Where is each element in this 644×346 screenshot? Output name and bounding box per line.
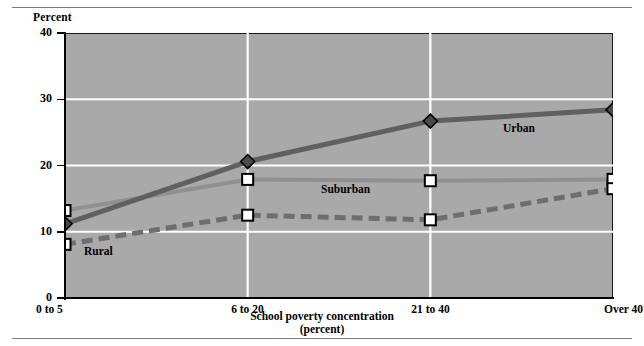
x-axis-title: School poverty concentration (percent) bbox=[0, 310, 644, 336]
y-tick-0 bbox=[57, 297, 65, 299]
y-tick-label-20: 20 bbox=[18, 158, 52, 173]
y-axis-title: Percent bbox=[33, 11, 72, 23]
bottom-divider-rule bbox=[12, 338, 632, 339]
y-tick-10 bbox=[57, 231, 65, 233]
x-axis-title-line1: School poverty concentration bbox=[0, 310, 644, 323]
y-tick-30 bbox=[57, 99, 65, 101]
series-label-rural: Rural bbox=[84, 245, 113, 257]
plot-area bbox=[65, 33, 613, 298]
figure-root: Percent 010203040 0 to 56 to 2021 to 40O… bbox=[0, 0, 644, 346]
y-tick-20 bbox=[57, 165, 65, 167]
y-tick-label-40: 40 bbox=[18, 25, 52, 40]
top-divider-rule bbox=[12, 7, 632, 8]
y-tick-label-30: 30 bbox=[18, 91, 52, 106]
series-label-suburban: Suburban bbox=[321, 183, 370, 195]
y-tick-40 bbox=[57, 32, 65, 34]
x-axis-line bbox=[64, 297, 614, 299]
y-tick-label-10: 10 bbox=[18, 224, 52, 239]
x-axis-title-line2: (percent) bbox=[0, 323, 644, 336]
chart-canvas bbox=[65, 33, 613, 298]
series-label-urban: Urban bbox=[503, 122, 535, 134]
